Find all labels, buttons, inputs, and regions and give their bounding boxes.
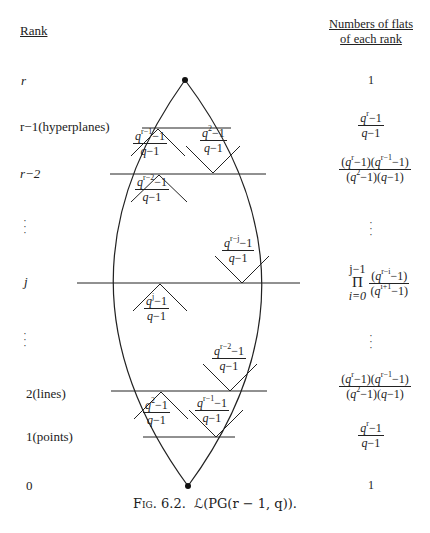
tri-2-down: qr−2−1q−1: [212, 344, 246, 373]
count-r: 1: [356, 73, 386, 88]
count-r-1: qr−1q−1: [346, 111, 396, 140]
rank-header: Rank: [20, 23, 47, 39]
tri-1-right: qr−1−1q−1: [195, 396, 229, 425]
tri-r2-up: qr−2−1q−1: [135, 175, 169, 204]
count-dots-lower: ···: [368, 333, 374, 351]
rank-r-2: r−2: [20, 166, 40, 182]
tri-1-left: q2−1q−1: [143, 398, 170, 427]
rank-2: 2(lines): [26, 386, 66, 402]
rank-1: 1(points): [26, 429, 73, 445]
count-j: j−1Πi=0 (qr−i−1)(qi+1−1): [334, 263, 424, 303]
top-vertex: [182, 77, 188, 83]
tri-r1-left: qr−1−1q−1: [133, 129, 167, 158]
count-r-2: (qr−1)(qr−1−1)(q2−1)(q−1): [320, 155, 430, 184]
rank-r: r: [21, 73, 26, 89]
tri-j-up: qj−1q−1: [144, 294, 169, 323]
tri-r1-right: q2−1q−1: [200, 126, 227, 155]
count-dots-upper: ···: [368, 220, 374, 238]
rank-j: j: [24, 274, 28, 290]
tri-j-down: qr−j−1q−1: [222, 236, 254, 265]
bottom-vertex: [185, 483, 191, 489]
rank-dots-upper: ···: [22, 218, 28, 236]
count-0: 1: [356, 478, 386, 493]
rank-0: 0: [26, 478, 33, 494]
figure-caption: Fig. 6.2. ℒ(PG(r − 1, q)).: [0, 496, 430, 511]
count-2: (qr−1)(qr−1−1)(q2−1)(q−1): [320, 372, 430, 401]
count-1: qr−1q−1: [346, 421, 396, 450]
numbers-header: Numbers of flats of each rank: [326, 17, 416, 47]
rank-dots-lower: ···: [22, 331, 28, 349]
rank-r-1: r−1(hyperplanes): [20, 119, 110, 135]
